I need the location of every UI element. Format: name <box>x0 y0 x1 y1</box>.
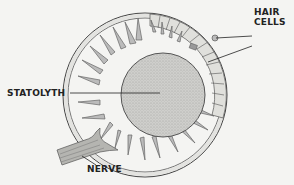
label-hair-cells-line2: CELLS <box>254 17 294 27</box>
statolyth <box>121 53 205 137</box>
label-hair-cells-line1: HAIR <box>254 7 294 17</box>
label-statolyth: STATOLYTH <box>7 88 65 98</box>
statocyst-diagram: STATOLYTH HAIR CELLS NERVE <box>0 0 294 185</box>
label-hair-cells: HAIR CELLS <box>254 7 294 27</box>
label-nerve: NERVE <box>87 164 122 174</box>
hair-cells-leader-line-1 <box>216 36 252 38</box>
